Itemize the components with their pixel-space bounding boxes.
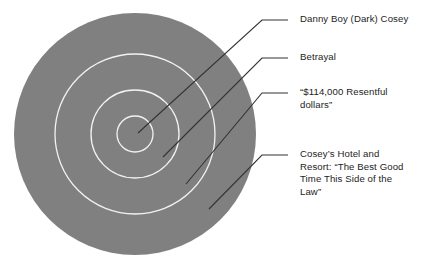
callout-label-betrayal: Betrayal [300, 51, 434, 64]
outer-ring [14, 13, 256, 255]
figure-canvas: Danny Boy (Dark) Cosey Betrayal “$114,00… [0, 0, 436, 271]
callout-label-danny-boy-dark-cosey: Danny Boy (Dark) Cosey [300, 13, 434, 26]
callout-label-resentful-dollars: “$114,000 Resentful dollars” [300, 86, 418, 111]
concentric-circle-diagram [0, 0, 436, 271]
callout-label-coseys-hotel-and-resort: Cosey’s Hotel and Resort: “The Best Good… [300, 148, 426, 198]
